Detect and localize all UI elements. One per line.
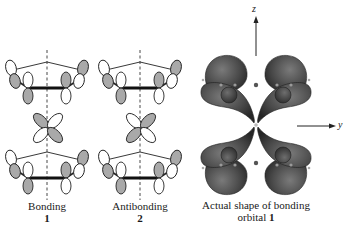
antibonding-label: Antibonding bbox=[105, 200, 175, 212]
bonding-label: Bonding bbox=[17, 200, 77, 212]
actual-shape-panel bbox=[201, 16, 336, 195]
actual-shape-number: 1 bbox=[269, 211, 275, 223]
bonding-panel bbox=[4, 50, 90, 200]
metal-d-orbital bbox=[124, 111, 159, 146]
metal-d-orbital bbox=[31, 111, 66, 146]
antibonding-number: 2 bbox=[105, 212, 175, 224]
antibonding-panel bbox=[97, 50, 183, 200]
orbital-diagram bbox=[0, 0, 353, 231]
bonding-caption: Bonding 1 bbox=[17, 200, 77, 224]
actual-shape-label-line1: Actual shape of bonding bbox=[196, 199, 316, 211]
orbital-word: orbital bbox=[238, 211, 267, 223]
antibonding-caption: Antibonding 2 bbox=[105, 200, 175, 224]
z-axis-arrowhead-icon bbox=[254, 16, 259, 23]
actual-shape-label-line2: orbital 1 bbox=[196, 211, 316, 223]
bonding-number: 1 bbox=[17, 212, 77, 224]
bonding-orbital-surface bbox=[201, 55, 311, 194]
y-axis-label: y bbox=[338, 119, 342, 130]
top-ligand-fragment bbox=[97, 59, 183, 104]
y-axis-arrowhead-icon bbox=[329, 124, 336, 129]
top-ligand-fragment bbox=[4, 59, 90, 104]
z-axis-label: z bbox=[252, 3, 256, 14]
actual-shape-caption: Actual shape of bonding orbital 1 bbox=[196, 199, 316, 223]
